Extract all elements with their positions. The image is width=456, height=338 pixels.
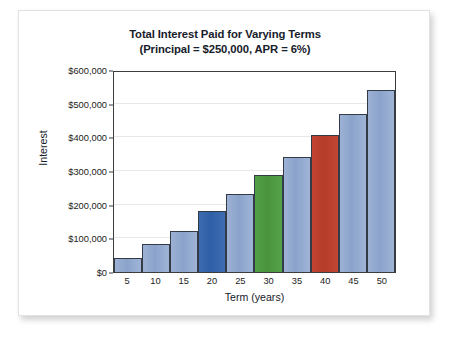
bar-term-25[interactable] xyxy=(226,194,254,272)
x-axis-tick-label: 40 xyxy=(311,274,339,290)
x-axis-tick-label: 30 xyxy=(254,274,282,290)
x-axis-tick-label: 45 xyxy=(339,274,367,290)
y-axis-tick-label: $0 xyxy=(23,268,113,278)
bar-term-40[interactable] xyxy=(311,135,339,272)
x-axis-tick-label: 50 xyxy=(368,274,396,290)
x-axis-tick-layer: 5101520253035404550 xyxy=(113,274,396,290)
bar-term-50[interactable] xyxy=(367,90,395,272)
plot-area xyxy=(113,71,396,273)
bar-term-35[interactable] xyxy=(283,157,311,272)
bar-term-5[interactable] xyxy=(114,258,142,272)
x-axis-tick-label: 10 xyxy=(141,274,169,290)
x-axis-tick-label: 25 xyxy=(226,274,254,290)
x-axis-title: Term (years) xyxy=(113,291,396,303)
y-axis-tick-label: $400,000 xyxy=(23,133,113,143)
bar-term-30[interactable] xyxy=(254,175,282,272)
y-axis-tick-label: $300,000 xyxy=(23,167,113,177)
y-axis-tick-label: $500,000 xyxy=(23,100,113,110)
y-axis-tick-layer: $0$100,000$200,000$300,000$400,000$500,0… xyxy=(19,71,113,273)
plot-wrapper: Interest $0$100,000$200,000$300,000$400,… xyxy=(19,11,431,317)
bar-term-45[interactable] xyxy=(339,114,367,272)
y-axis-tick-label: $200,000 xyxy=(23,201,113,211)
bar-term-15[interactable] xyxy=(170,231,198,272)
x-axis-tick-label: 5 xyxy=(113,274,141,290)
y-axis-tick-label: $100,000 xyxy=(23,234,113,244)
bar-series xyxy=(114,72,395,272)
x-axis-tick-label: 15 xyxy=(170,274,198,290)
bar-term-10[interactable] xyxy=(142,244,170,272)
bar-term-20[interactable] xyxy=(198,211,226,272)
chart-card: Total Interest Paid for Varying Terms (P… xyxy=(18,10,430,316)
y-axis-tick-label: $600,000 xyxy=(23,66,113,76)
x-axis-tick-label: 35 xyxy=(283,274,311,290)
x-axis-tick-label: 20 xyxy=(198,274,226,290)
